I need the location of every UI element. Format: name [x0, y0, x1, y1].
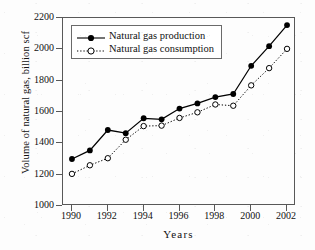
y-tick-label: 1600 [20, 106, 54, 116]
data-point [123, 130, 129, 136]
data-point [266, 43, 272, 49]
data-point [141, 115, 147, 121]
data-point [105, 156, 110, 161]
y-tick-mark [56, 17, 62, 18]
y-tick-mark [56, 174, 62, 175]
x-tick-label: 1998 [194, 210, 234, 221]
x-tick-label: 2000 [230, 210, 270, 221]
data-point [177, 115, 182, 120]
data-point [212, 94, 218, 100]
y-tick-label: 1000 [20, 200, 54, 210]
y-tick-mark [56, 80, 62, 81]
data-point [159, 116, 165, 122]
data-point [87, 147, 93, 153]
data-point [159, 123, 164, 128]
data-point [248, 63, 254, 69]
data-point [231, 103, 236, 108]
legend-swatch-solid-filled-circle-icon [76, 30, 106, 42]
y-tick-mark [56, 142, 62, 143]
data-point [284, 46, 289, 51]
x-tick-label: 2002 [266, 210, 306, 221]
legend-swatch-dotted-open-circle-icon [76, 43, 106, 55]
legend-label-production: Natural gas production [106, 30, 205, 42]
legend-label-consumption: Natural gas consumption [106, 43, 214, 55]
y-tick-mark [56, 205, 62, 206]
y-tick-label: 2200 [20, 12, 54, 22]
data-point [195, 100, 201, 106]
data-point [69, 156, 75, 162]
data-point [230, 91, 236, 97]
data-point [87, 163, 92, 168]
y-tick-label: 1800 [20, 75, 54, 85]
data-point [123, 137, 128, 142]
data-point [213, 102, 218, 107]
data-point [141, 123, 146, 128]
data-point [69, 171, 74, 176]
x-tick-label: 1994 [123, 210, 163, 221]
y-tick-mark [56, 111, 62, 112]
data-point [248, 83, 253, 88]
legend-item-production: Natural gas production [76, 29, 214, 42]
x-tick-label: 1992 [87, 210, 127, 221]
data-point [284, 22, 290, 28]
chart-figure: Volume of natural gas, billion scf 10001… [0, 0, 315, 250]
x-tick-label: 1996 [159, 210, 199, 221]
data-point [266, 65, 271, 70]
x-tick-label: 1990 [51, 210, 91, 221]
data-point [195, 110, 200, 115]
legend-item-consumption: Natural gas consumption [76, 42, 214, 55]
data-point [105, 127, 111, 133]
y-tick-mark [56, 48, 62, 49]
x-axis-title: Years [62, 228, 295, 240]
y-tick-label: 2000 [20, 43, 54, 53]
y-tick-label: 1400 [20, 137, 54, 147]
y-tick-label: 1200 [20, 169, 54, 179]
data-point [177, 106, 183, 112]
chart-legend: Natural gas production Natural gas consu… [71, 25, 222, 59]
